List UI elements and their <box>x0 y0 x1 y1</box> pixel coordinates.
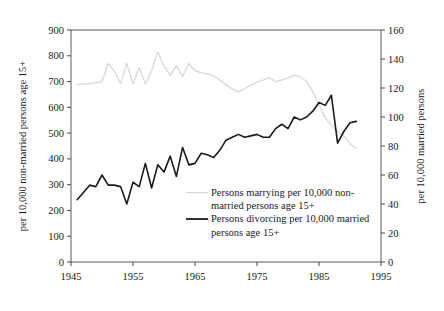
y-tick-label: 100 <box>48 231 64 242</box>
y-tick-label: 200 <box>48 205 64 216</box>
y2-tick-label: 20 <box>388 228 399 239</box>
y-tick-label: 300 <box>48 179 64 190</box>
y-tick-label: 600 <box>48 102 64 113</box>
y2-tick-label: 140 <box>388 54 404 65</box>
y2-tick-label: 40 <box>388 199 399 210</box>
y-tick-label: 0 <box>59 257 64 268</box>
x-tick-label: 1945 <box>61 271 82 282</box>
y-axis-ticks: 0100200300400500600700800900 <box>48 25 71 268</box>
y2-tick-label: 160 <box>388 25 404 36</box>
legend-label-divorcing: Persons divorcing per 10,000 married <box>211 213 370 224</box>
x-tick-label: 1985 <box>309 271 330 282</box>
legend-label-divorcing: persons age 15+ <box>211 227 279 238</box>
y2-tick-label: 80 <box>388 141 399 152</box>
chart-figure: 0100200300400500600700800900 02040608010… <box>0 0 444 311</box>
legend-label-marrying: Persons marrying per 10,000 non- <box>211 187 355 198</box>
line-chart: 0100200300400500600700800900 02040608010… <box>0 0 444 311</box>
y2-tick-label: 120 <box>388 83 404 94</box>
y2-tick-label: 0 <box>388 257 393 268</box>
x-tick-label: 1965 <box>185 271 206 282</box>
y2-axis-ticks: 020406080100120140160 <box>381 25 404 268</box>
y2-tick-label: 60 <box>388 170 399 181</box>
y-tick-label: 900 <box>48 25 64 36</box>
x-axis-ticks: 194519551965197519851995 <box>61 262 392 282</box>
x-tick-label: 1955 <box>123 271 144 282</box>
legend-label-marrying: married persons age 15+ <box>211 200 315 211</box>
y-axis-title: per 10,000 non-married persons age 15+ <box>17 61 28 231</box>
y-tick-label: 400 <box>48 153 64 164</box>
y2-axis-title: per 10,000 married persons <box>415 89 426 204</box>
y-tick-label: 700 <box>48 76 64 87</box>
x-tick-label: 1975 <box>247 271 268 282</box>
y2-tick-label: 100 <box>388 112 404 123</box>
y-tick-label: 800 <box>48 50 64 61</box>
y-tick-label: 500 <box>48 128 64 139</box>
x-tick-label: 1995 <box>371 271 392 282</box>
